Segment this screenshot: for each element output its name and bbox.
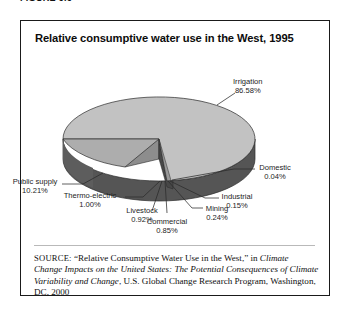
pie-label-irrigation-value: 86.58% <box>233 86 263 95</box>
pie-label-commercial-name: Commercial <box>147 217 188 226</box>
pie-chart: Irrigation 86.58% Public supply 10.21% T… <box>21 51 328 243</box>
pie-label-industrial-name: Industrial <box>222 192 253 201</box>
pie-label-thermo-electric-name: Thermo-electric <box>64 191 117 200</box>
pie-label-domestic-name: Domestic <box>259 163 291 172</box>
pie-label-thermo-electric: Thermo-electric 1.00% <box>56 191 124 210</box>
source-text-part1: “Relative Consumptive Water Use in the W… <box>72 253 260 263</box>
source-citation: SOURCE: “Relative Consumptive Water Use … <box>34 253 319 299</box>
pie-label-domestic-value: 0.04% <box>253 172 297 181</box>
pie-chart-svg <box>21 51 328 243</box>
pie-label-mining-value: 0.24% <box>200 213 234 222</box>
pie-label-public-supply-name: Public supply <box>13 177 58 186</box>
pie-label-industrial-value: 0.15% <box>216 201 258 210</box>
figure-title: Relative consumptive water use in the We… <box>35 32 294 44</box>
figure-number-label: FIGURE 6.6 <box>20 0 72 3</box>
pie-label-thermo-electric-value: 1.00% <box>56 200 124 209</box>
pie-label-public-supply: Public supply 10.21% <box>8 177 62 196</box>
pie-label-irrigation-name: Irrigation <box>233 77 263 86</box>
pie-label-domestic: Domestic 0.04% <box>253 163 297 182</box>
pie-label-industrial: Industrial 0.15% <box>216 192 258 211</box>
source-label: SOURCE: <box>34 253 72 263</box>
pie-label-commercial-value: 0.85% <box>143 226 191 235</box>
pie-label-public-supply-value: 10.21% <box>8 186 62 195</box>
source-divider <box>34 245 315 246</box>
pie-label-commercial: Commercial 0.85% <box>143 217 191 236</box>
pie-label-livestock-name: Livestock <box>126 206 158 215</box>
figure-box: Relative consumptive water use in the We… <box>20 20 330 296</box>
pie-label-irrigation: Irrigation 86.58% <box>233 77 263 96</box>
